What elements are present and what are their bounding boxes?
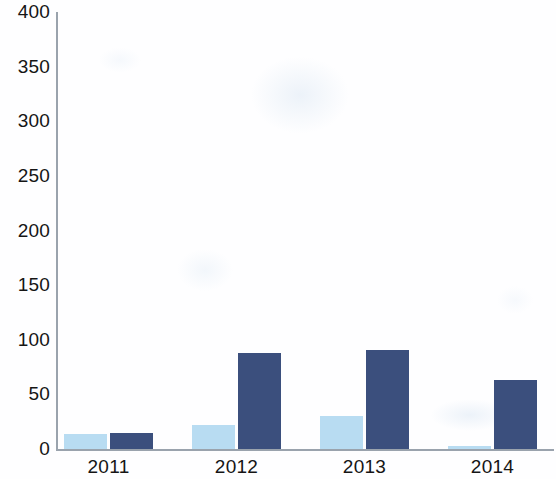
x-axis-tick-label: 2012 [192, 456, 282, 477]
x-axis: 2011201220132014 [0, 0, 556, 479]
x-axis-tick-label: 2014 [448, 456, 538, 477]
bar-chart: 050100150200250300350400 201120122013201… [0, 0, 556, 479]
x-axis-tick-label: 2013 [320, 456, 410, 477]
x-axis-tick-label: 2011 [64, 456, 154, 477]
